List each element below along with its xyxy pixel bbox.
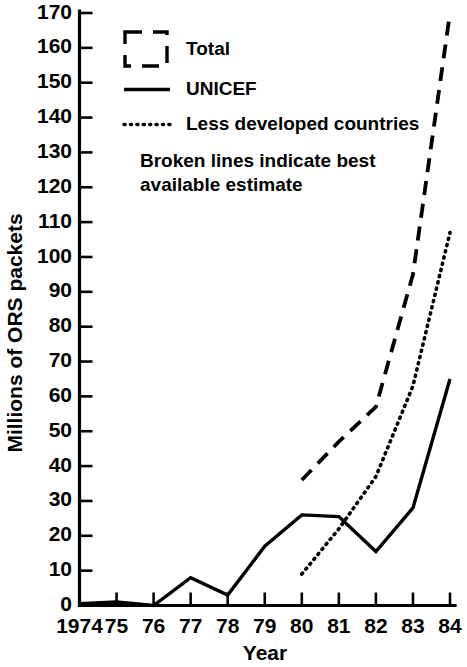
x-axis-tick-label: 78 (216, 614, 240, 637)
y-axis-ticks (80, 13, 93, 606)
y-axis-tick-labels: 0102030405060708090100110120130140150160… (37, 0, 72, 615)
x-axis-tick-label: 77 (179, 614, 202, 637)
legend-note-line-1: Broken lines indicate best (140, 150, 376, 171)
x-axis-tick-label: 81 (327, 614, 351, 637)
y-axis-tick-label: 0 (60, 592, 72, 615)
dashed-box-icon (125, 32, 167, 66)
x-axis-tick-label: 1974 (56, 614, 103, 637)
series-line-less-developed-countries (302, 233, 450, 575)
x-axis-tick-label: 83 (401, 614, 424, 637)
legend-label-total: Total (186, 38, 230, 59)
y-axis-title: Millions of ORS packets (3, 213, 26, 452)
x-axis-title: Year (243, 641, 287, 664)
y-axis-tick-label: 130 (37, 139, 72, 162)
y-axis-tick-label: 80 (49, 313, 72, 336)
y-axis-tick-label: 100 (37, 244, 72, 267)
y-axis-tick-label: 110 (38, 209, 72, 232)
x-axis-tick-label: 76 (142, 614, 165, 637)
x-axis-tick-label: 79 (253, 614, 276, 637)
y-axis-tick-label: 40 (49, 453, 72, 476)
line-chart: 0102030405060708090100110120130140150160… (0, 0, 467, 667)
chart-legend: Total UNICEF Less developed countries Br… (124, 32, 419, 195)
chart-axes (80, 11, 456, 606)
y-axis-tick-label: 50 (49, 418, 72, 441)
y-axis-tick-label: 150 (37, 69, 72, 92)
y-axis-tick-label: 170 (37, 0, 72, 23)
y-axis-tick-label: 70 (49, 348, 72, 371)
series-line-total (302, 13, 450, 480)
y-axis-tick-label: 120 (37, 174, 72, 197)
chart-figure: 0102030405060708090100110120130140150160… (0, 0, 467, 667)
y-axis-tick-label: 160 (37, 34, 72, 57)
x-axis-tick-label: 80 (290, 614, 313, 637)
x-axis-tick-label: 84 (438, 614, 462, 637)
x-axis-tick-label: 82 (364, 614, 387, 637)
y-axis-tick-label: 90 (49, 278, 72, 301)
x-axis-tick-label: 75 (105, 614, 129, 637)
legend-label-less-developed-countries: Less developed countries (186, 113, 419, 134)
legend-note-line-2: available estimate (140, 174, 303, 195)
y-axis-tick-label: 60 (49, 383, 72, 406)
y-axis-tick-label: 20 (49, 522, 72, 545)
legend-label-unicef: UNICEF (186, 78, 257, 99)
x-axis-tick-labels: 197475767778798081828384 (56, 614, 462, 637)
y-axis-tick-label: 140 (37, 104, 72, 127)
y-axis-tick-label: 30 (49, 487, 72, 510)
y-axis-tick-label: 10 (49, 557, 72, 580)
series-line-unicef (80, 379, 451, 606)
